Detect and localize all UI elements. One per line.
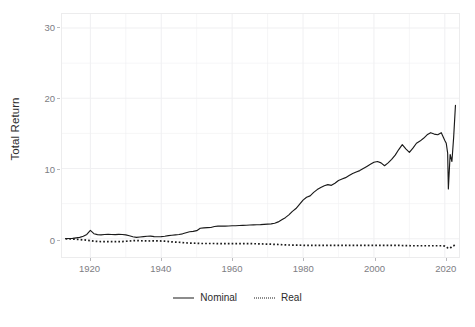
legend-item-nominal[interactable]: Nominal <box>173 292 237 303</box>
x-tick-mark-1980 <box>303 258 304 261</box>
x-tick-mark-2000 <box>375 258 376 261</box>
figure-caption <box>14 316 469 327</box>
chart-figure: Total Return 0102030 1920194019601980200… <box>0 0 475 327</box>
x-tick-label-2000: 2000 <box>364 263 385 274</box>
x-tick-label-1960: 1960 <box>221 263 242 274</box>
y-tick-mark-20 <box>57 98 60 99</box>
x-tick-label-1920: 1920 <box>79 263 100 274</box>
series-line-nominal <box>66 105 456 238</box>
y-tick-mark-10 <box>57 169 60 170</box>
legend-label-real: Real <box>281 292 302 303</box>
x-tick-mark-2020 <box>446 258 447 261</box>
x-tick-mark-1940 <box>161 258 162 261</box>
x-tick-mark-1960 <box>232 258 233 261</box>
legend-key-dotted-line-icon <box>254 292 275 303</box>
y-tick-mark-30 <box>57 27 60 28</box>
legend-key-solid-line-icon <box>173 292 194 303</box>
data-series-lines <box>62 14 459 257</box>
chart-legend: Nominal Real <box>0 292 475 303</box>
legend-label-nominal: Nominal <box>200 292 237 303</box>
legend-item-real[interactable]: Real <box>254 292 302 303</box>
x-tick-label-1940: 1940 <box>150 263 171 274</box>
x-tick-mark-1920 <box>90 258 91 261</box>
series-line-real <box>66 239 456 248</box>
x-tick-label-2020: 2020 <box>435 263 456 274</box>
plot-panel <box>61 13 460 258</box>
y-tick-mark-0 <box>57 240 60 241</box>
x-tick-label-1980: 1980 <box>293 263 314 274</box>
